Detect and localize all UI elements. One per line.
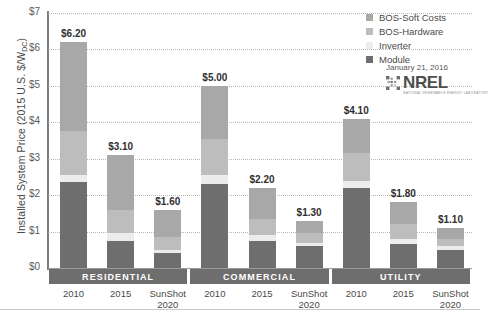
bar-segment-inverter xyxy=(107,233,134,240)
legend-item[interactable]: BOS-Soft Costs xyxy=(366,11,446,24)
nrel-logo: NREL xyxy=(386,75,489,90)
bar-value-label: $1.30 xyxy=(297,207,322,218)
bar-stack: $1.30 xyxy=(296,221,323,268)
bar-stack: $2.20 xyxy=(249,188,276,268)
legend-swatch-icon xyxy=(366,14,373,21)
y-axis-tick-label: $5 xyxy=(29,79,40,90)
bar-segment-bos-hardware xyxy=(343,153,370,180)
category-band-residential: RESIDENTIAL xyxy=(49,269,187,284)
bar-value-label: $2.20 xyxy=(249,174,274,185)
bar-value-label: $5.00 xyxy=(202,72,227,83)
bar-value-label: $4.10 xyxy=(344,105,369,116)
y-axis-tick-label: $3 xyxy=(29,152,40,163)
bar-segment-inverter xyxy=(343,181,370,188)
attribution-block: January 21, 2016 NREL NATIONAL RENEWABLE… xyxy=(386,63,489,95)
nrel-wordmark: NREL xyxy=(403,75,448,90)
legend-label: Inverter xyxy=(379,40,411,51)
y-axis-tick-label: $6 xyxy=(29,42,40,53)
legend-label: BOS-Hardware xyxy=(379,26,443,37)
bar-segment-bos-soft-costs xyxy=(60,42,87,131)
bar-value-label: $3.10 xyxy=(108,141,133,152)
category-band-label: UTILITY xyxy=(380,272,422,282)
bar-segment-module xyxy=(343,188,370,268)
bar-segment-bos-hardware xyxy=(60,131,87,175)
bottom-divider xyxy=(0,309,480,310)
bar-segment-inverter xyxy=(201,175,228,184)
category-band-utility: UTILITY xyxy=(332,269,470,284)
legend-swatch-icon xyxy=(366,28,373,35)
y-axis-tick-label: $2 xyxy=(29,188,40,199)
bar-stack: $1.10 xyxy=(437,228,464,268)
bar-segment-bos-hardware xyxy=(437,239,464,246)
bar-stack: $1.80 xyxy=(390,202,417,268)
bar-stack: $1.60 xyxy=(154,210,181,268)
bar-segment-module xyxy=(296,246,323,268)
bar-value-label: $1.60 xyxy=(155,196,180,207)
gridline xyxy=(48,122,472,123)
bar-segment-module xyxy=(437,250,464,268)
bar-segment-module xyxy=(107,241,134,268)
y-axis-tick-label: $1 xyxy=(29,225,40,236)
bar-segment-bos-soft-costs xyxy=(107,155,134,210)
y-axis-tick-label: $7 xyxy=(29,6,40,17)
y-axis-tick-label: $0 xyxy=(29,261,40,272)
bar-segment-bos-soft-costs xyxy=(249,188,276,219)
legend-item[interactable]: BOS-Hardware xyxy=(366,25,446,38)
bar-segment-module xyxy=(390,244,417,268)
bar-segment-module xyxy=(249,241,276,268)
bar-segment-bos-soft-costs xyxy=(437,228,464,239)
legend-swatch-icon xyxy=(366,42,373,49)
bar-segment-module xyxy=(60,182,87,268)
bar-stack: $4.10 xyxy=(343,119,370,268)
bar-segment-bos-hardware xyxy=(201,139,228,175)
legend: BOS-Soft CostsBOS-HardwareInverterModule xyxy=(366,11,446,67)
bar-segment-bos-soft-costs xyxy=(296,221,323,234)
y-axis-ticks: $0$1$2$3$4$5$6$7 xyxy=(0,13,44,268)
bar-segment-inverter xyxy=(60,175,87,182)
category-band-commercial: COMMERCIAL xyxy=(190,269,328,284)
legend-swatch-icon xyxy=(366,56,373,63)
bar-value-label: $6.20 xyxy=(61,28,86,39)
bar-segment-bos-soft-costs xyxy=(154,210,181,237)
legend-item[interactable]: Inverter xyxy=(366,39,446,52)
bar-segment-module xyxy=(154,253,181,268)
y-axis-tick-label: $4 xyxy=(29,115,40,126)
x-axis-tick-label: SunShot2020 xyxy=(415,288,485,310)
bar-segment-bos-soft-costs xyxy=(343,119,370,154)
bar-segment-bos-hardware xyxy=(249,219,276,235)
bar-stack: $5.00 xyxy=(201,86,228,268)
category-band-label: COMMERCIAL xyxy=(223,272,296,282)
nrel-mark-icon xyxy=(386,76,400,90)
nrel-tagline: NATIONAL RENEWABLE ENERGY LABORATORY xyxy=(403,91,489,95)
category-band-label: RESIDENTIAL xyxy=(82,272,154,282)
bar-segment-module xyxy=(201,184,228,268)
bar-segment-bos-hardware xyxy=(390,224,417,239)
bar-segment-bos-hardware xyxy=(296,233,323,242)
bar-stack: $6.20 xyxy=(60,42,87,268)
x-axis-tick-line: SunShot xyxy=(415,288,485,299)
bar-segment-bos-hardware xyxy=(107,210,134,234)
bar-value-label: $1.80 xyxy=(391,188,416,199)
bar-segment-bos-hardware xyxy=(154,237,181,250)
bar-value-label: $1.10 xyxy=(438,214,463,225)
bar-stack: $3.10 xyxy=(107,155,134,268)
bar-segment-bos-soft-costs xyxy=(201,86,228,139)
bar-segment-bos-soft-costs xyxy=(390,202,417,224)
legend-label: BOS-Soft Costs xyxy=(379,12,446,23)
publication-date: January 21, 2016 xyxy=(386,63,489,72)
